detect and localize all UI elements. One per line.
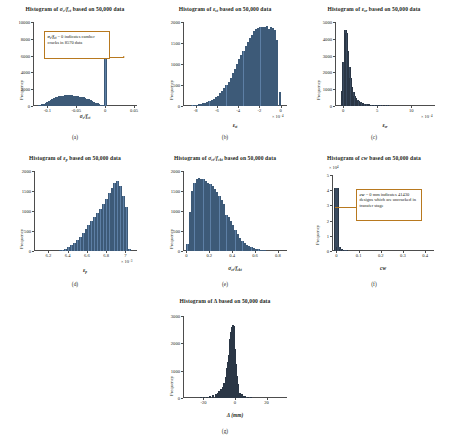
- y-tick: [181, 398, 183, 399]
- y-tick-label: 5000: [323, 20, 332, 25]
- histogram-bar: [379, 105, 382, 106]
- y-tick: [333, 39, 335, 40]
- panel-g-axes: -200200100020003000: [183, 316, 287, 398]
- y-tick: [31, 56, 33, 57]
- x-tick-label: -2: [257, 108, 261, 113]
- x-tick-label: 10: [409, 108, 414, 113]
- y-tick: [32, 171, 34, 172]
- panel-b-x-exponent: × 10⁻⁴: [272, 114, 284, 119]
- panel-e-xlabel: σct/fckt: [228, 265, 241, 272]
- y-tick-label: 0: [178, 249, 180, 254]
- panel-b-axes: -8-6-4-200500100015002000: [183, 22, 287, 106]
- panel-a-xlabel: σc/fct: [80, 113, 90, 120]
- y-tick: [32, 191, 34, 192]
- x-tick-label: 6.4: [65, 253, 71, 258]
- y-tick: [330, 205, 332, 206]
- y-tick: [181, 106, 183, 107]
- histogram-bar: [128, 249, 131, 251]
- panel-e-title: Histogram of σct/fckt based on 50,000 da…: [150, 155, 300, 162]
- x-tick-label: 0: [335, 253, 337, 258]
- panel-c-ylabel: Frequency: [316, 80, 321, 100]
- y-tick-label: 500: [173, 229, 180, 234]
- histogram-bar: [212, 395, 214, 398]
- y-tick: [330, 236, 332, 237]
- y-tick-label: 5: [327, 173, 329, 178]
- panel-g-xlabel: Δ (mm): [227, 412, 243, 418]
- panel-b-bars: [183, 22, 287, 106]
- panel-d-caption: (d): [0, 281, 150, 287]
- y-tick: [181, 343, 183, 344]
- y-tick-label: 3000: [323, 53, 332, 58]
- x-tick-label: 0.05: [130, 108, 138, 113]
- panel-f-title: Histogram of cw based on 50,000 data: [299, 155, 449, 161]
- histogram-bar: [125, 207, 128, 251]
- panel-d-x-exponent: × 10⁻³: [121, 259, 132, 264]
- panel-d: Histogram of εp based on 50,000 data Fre…: [0, 155, 150, 297]
- y-tick: [330, 251, 332, 252]
- x-tick-label: 7: [124, 253, 126, 258]
- y-tick: [181, 85, 183, 86]
- y-tick: [31, 106, 33, 107]
- x-tick-label: 0.6: [252, 253, 258, 258]
- y-tick-label: 1000: [171, 62, 180, 67]
- x-tick-label: 0: [234, 400, 236, 405]
- y-tick-label: 2000: [171, 341, 180, 346]
- y-tick: [32, 231, 34, 232]
- y-tick: [31, 22, 33, 23]
- histogram-bar: [250, 397, 252, 398]
- y-tick: [31, 39, 33, 40]
- y-tick-label: 3: [327, 203, 329, 208]
- y-tick-label: 1: [327, 233, 329, 238]
- y-tick-label: 3000: [171, 314, 180, 319]
- y-tick: [181, 371, 183, 372]
- y-tick: [181, 191, 183, 192]
- y-tick-label: 4: [327, 188, 329, 193]
- x-tick-label: 0: [185, 253, 187, 258]
- figure-container: Histogram of σc/fct based on 50,000 data…: [0, 0, 449, 443]
- y-tick-label: 1500: [171, 41, 180, 46]
- panel-e-axes: 00.20.40.60.80500100015002000: [183, 171, 287, 251]
- panel-a-annotation-arrowhead: [123, 56, 125, 58]
- x-tick-label: 6.2: [46, 253, 52, 258]
- panel-c: Histogram of εsr based on 50,000 data Fr…: [299, 6, 449, 148]
- panel-c-title: Histogram of εsr based on 50,000 data: [299, 6, 449, 13]
- panel-a-annotation-arrow: [110, 57, 124, 58]
- y-tick: [181, 171, 183, 172]
- y-tick: [32, 211, 34, 212]
- y-tick: [181, 22, 183, 23]
- y-tick-label: 500: [173, 83, 180, 88]
- y-tick-label: 2000: [171, 169, 180, 174]
- panel-f-xlabel: cw: [380, 265, 386, 271]
- y-tick-label: 4000: [21, 70, 30, 75]
- panel-d-axes: 6.26.46.66.870500100015002000: [34, 171, 137, 251]
- panel-f-caption: (f): [299, 281, 449, 287]
- x-tick-label: 0.2: [378, 253, 384, 258]
- y-tick: [330, 221, 332, 222]
- panel-c-caption: (c): [299, 134, 449, 140]
- x-tick-label: -8: [194, 108, 198, 113]
- histogram-bar: [279, 92, 281, 106]
- y-tick-label: 500: [24, 229, 31, 234]
- x-tick-label: 0.3: [400, 253, 406, 258]
- panel-e: Histogram of σct/fckt based on 50,000 da…: [150, 155, 300, 297]
- y-tick: [181, 43, 183, 44]
- y-tick: [31, 72, 33, 73]
- panel-c-x-exponent: × 10⁻⁴: [421, 114, 433, 119]
- x-tick-label: 0: [279, 108, 281, 113]
- panel-c-bars: [335, 22, 435, 106]
- y-tick: [333, 106, 335, 107]
- x-tick-label: -6: [215, 108, 219, 113]
- panel-g-bars: [183, 316, 287, 398]
- histogram-bar: [206, 397, 208, 398]
- y-tick: [31, 89, 33, 90]
- y-tick-label: 2000: [22, 169, 31, 174]
- panel-g-caption: (g): [150, 428, 300, 434]
- histogram-bar: [383, 105, 386, 106]
- panel-f: Histogram of cw based on 50,000 data Fre…: [299, 155, 449, 297]
- y-tick: [181, 211, 183, 212]
- panel-f-annotation-arrow: [335, 207, 357, 208]
- y-tick-label: 0: [178, 104, 180, 109]
- y-tick-label: 1000: [171, 209, 180, 214]
- y-tick: [333, 56, 335, 57]
- y-tick-label: 6000: [21, 53, 30, 58]
